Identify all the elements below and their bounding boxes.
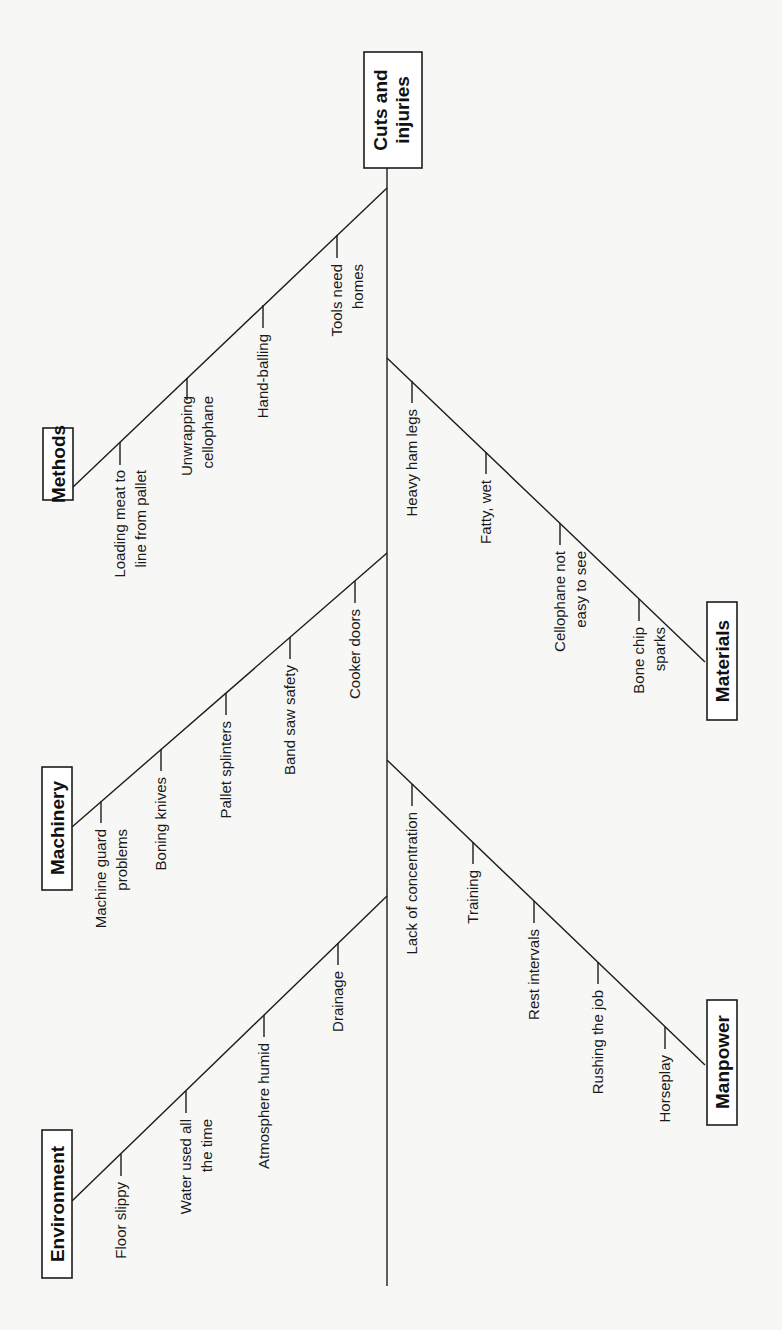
effect-label-line2: injuries	[392, 76, 413, 144]
category-label-machinery: Machinery	[47, 781, 68, 875]
cause-label: easy to see	[572, 551, 589, 628]
cause-label: homes	[349, 264, 366, 309]
cause-label: Floor slippy	[112, 1182, 129, 1259]
cause-label: Fatty, wet	[477, 479, 494, 544]
branch-methods	[72, 188, 387, 488]
cause-label: sparks	[651, 627, 668, 671]
category-label-materials: Materials	[712, 620, 733, 702]
branch-environment	[72, 896, 387, 1201]
cause-label: Atmosphere humid	[255, 1043, 272, 1169]
cause-label: Tools need	[328, 264, 345, 337]
cause-label: the time	[198, 1119, 215, 1172]
cause-label: problems	[113, 829, 130, 891]
category-label-manpower: Manpower	[712, 1014, 733, 1109]
fishbone-diagram: Cuts and injuries Methods Loading meat t…	[0, 0, 782, 1330]
category-label-environment: Environment	[47, 1145, 68, 1262]
category-environment: Environment Floor slippy Water used all …	[42, 896, 387, 1278]
cause-label: Loading meat to	[111, 470, 128, 578]
cause-label: line from pallet	[132, 469, 149, 567]
cause-label: Lack of concentration	[403, 812, 420, 955]
cause-label: Boning knives	[152, 777, 169, 870]
cause-label: Rushing the job	[589, 990, 606, 1094]
cause-label: Heavy ham legs	[403, 409, 420, 517]
cause-label: Rest intervals	[525, 929, 542, 1020]
cause-label: cellophane	[199, 396, 216, 469]
cause-label: Water used all	[177, 1119, 194, 1214]
cause-label: Hand-balling	[254, 334, 271, 418]
cause-label: Drainage	[329, 971, 346, 1032]
category-manpower: Manpower Lack of concentration Training …	[387, 760, 737, 1125]
effect-box: Cuts and injuries	[364, 52, 422, 168]
effect-label-line1: Cuts and	[370, 69, 391, 150]
category-machinery: Machinery Machine guard problems Boning …	[42, 553, 387, 928]
branch-materials	[387, 358, 705, 662]
cause-label: Machine guard	[92, 829, 109, 928]
cause-label: Cooker doors	[346, 609, 363, 699]
cause-label: Pallet splinters	[217, 721, 234, 819]
branch-manpower	[387, 760, 705, 1065]
cause-label: Horseplay	[656, 1055, 673, 1123]
category-label-methods: Methods	[48, 425, 69, 503]
cause-label: Bone chip	[630, 627, 647, 694]
category-materials: Materials Heavy ham legs Fatty, wet Cell…	[387, 358, 737, 720]
cause-label: Training	[464, 870, 481, 924]
cause-label: Cellophane not	[551, 550, 568, 652]
cause-label: Unwrapping	[178, 396, 195, 476]
cause-label: Band saw safety	[281, 665, 298, 776]
category-methods: Methods Loading meat to line from pallet…	[43, 188, 387, 578]
